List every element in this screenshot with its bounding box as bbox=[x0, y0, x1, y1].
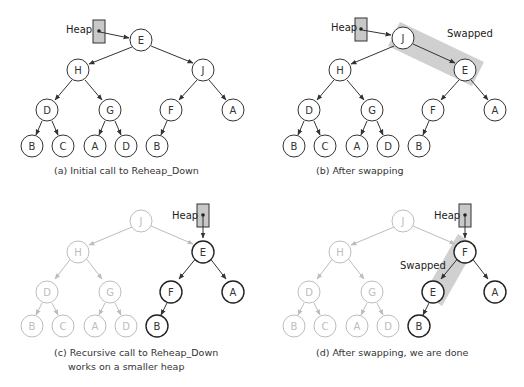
tree-node: B bbox=[21, 315, 43, 337]
svg-text:G: G bbox=[368, 287, 376, 298]
svg-text:B: B bbox=[416, 141, 423, 152]
heap-label: Heap bbox=[66, 24, 92, 35]
svg-text:D: D bbox=[384, 321, 392, 332]
svg-text:B: B bbox=[291, 141, 298, 152]
tree-node: D bbox=[298, 99, 320, 121]
tree-node: B bbox=[146, 135, 168, 157]
tree-node: A bbox=[84, 135, 106, 157]
svg-text:A: A bbox=[92, 141, 99, 152]
tree-node: D bbox=[377, 315, 399, 337]
svg-text:H: H bbox=[336, 247, 344, 258]
svg-text:F: F bbox=[168, 287, 174, 298]
tree-node: E bbox=[192, 241, 214, 263]
swapped-label: Swapped bbox=[447, 28, 493, 39]
panel-b: Swapped Heap J H E D G F A B C A D B (b)… bbox=[283, 18, 506, 176]
tree-node: C bbox=[314, 135, 336, 157]
svg-text:E: E bbox=[138, 35, 144, 46]
svg-text:F: F bbox=[430, 105, 436, 116]
svg-text:G: G bbox=[368, 105, 376, 116]
tree-node: C bbox=[314, 315, 336, 337]
svg-text:B: B bbox=[416, 321, 423, 332]
svg-text:H: H bbox=[74, 247, 82, 258]
svg-text:B: B bbox=[154, 141, 161, 152]
tree-node: H bbox=[329, 59, 351, 81]
tree-node: G bbox=[361, 99, 383, 121]
heap-label: Heap bbox=[434, 210, 460, 221]
panel-c: Heap J H E D G F A B C A D B (c) Recursi… bbox=[21, 204, 244, 372]
tree-node: D bbox=[377, 135, 399, 157]
tree-node: F bbox=[422, 99, 444, 121]
tree-node: A bbox=[84, 315, 106, 337]
svg-text:D: D bbox=[122, 321, 130, 332]
tree-node: A bbox=[484, 99, 506, 121]
panel-a: Heap E H J D G F A B C A D B (a) Initial… bbox=[21, 20, 244, 176]
panel-d: Swapped Heap J H F D G E A B C A D B (d)… bbox=[283, 204, 506, 358]
tree-node: G bbox=[99, 281, 121, 303]
tree-node: A bbox=[346, 315, 368, 337]
tree-node: G bbox=[99, 99, 121, 121]
svg-text:C: C bbox=[322, 321, 329, 332]
tree-node: J bbox=[130, 210, 152, 232]
caption-c-line2: works on a smaller heap bbox=[68, 361, 184, 372]
svg-text:A: A bbox=[354, 321, 361, 332]
reheap-down-diagram: Heap E H J D G F A B C A D B (a) Initial… bbox=[0, 0, 524, 387]
svg-text:A: A bbox=[230, 105, 237, 116]
tree-node: E bbox=[454, 59, 476, 81]
svg-text:J: J bbox=[401, 33, 405, 44]
svg-text:F: F bbox=[462, 247, 468, 258]
svg-text:H: H bbox=[74, 65, 82, 76]
tree-node: E bbox=[130, 29, 152, 51]
tree-node: C bbox=[52, 315, 74, 337]
tree-node: A bbox=[346, 135, 368, 157]
svg-text:D: D bbox=[305, 287, 313, 298]
svg-text:C: C bbox=[60, 141, 67, 152]
swapped-label: Swapped bbox=[400, 260, 446, 271]
svg-text:D: D bbox=[122, 141, 130, 152]
tree-node: A bbox=[222, 99, 244, 121]
tree-node: B bbox=[21, 135, 43, 157]
tree-node: D bbox=[36, 99, 58, 121]
tree-node: J bbox=[392, 210, 414, 232]
svg-text:A: A bbox=[354, 141, 361, 152]
tree-node: B bbox=[283, 135, 305, 157]
tree-node: D bbox=[115, 135, 137, 157]
caption-c-line1: (c) Recursive call to Reheap_Down bbox=[54, 347, 218, 358]
tree-node: J bbox=[192, 59, 214, 81]
svg-text:C: C bbox=[60, 321, 67, 332]
tree-node: D bbox=[298, 281, 320, 303]
tree-node: D bbox=[36, 281, 58, 303]
svg-text:D: D bbox=[43, 105, 51, 116]
tree-node: A bbox=[484, 281, 506, 303]
svg-text:A: A bbox=[92, 321, 99, 332]
tree-node: C bbox=[52, 135, 74, 157]
caption-a: (a) Initial call to Reheap_Down bbox=[54, 165, 199, 176]
tree-node: G bbox=[361, 281, 383, 303]
svg-text:D: D bbox=[43, 287, 51, 298]
svg-text:C: C bbox=[322, 141, 329, 152]
tree-node: H bbox=[67, 241, 89, 263]
tree-node: A bbox=[222, 281, 244, 303]
svg-text:G: G bbox=[106, 287, 114, 298]
svg-text:A: A bbox=[230, 287, 237, 298]
svg-text:F: F bbox=[168, 105, 174, 116]
svg-text:J: J bbox=[139, 216, 143, 227]
tree-node: F bbox=[454, 241, 476, 263]
tree-node: F bbox=[160, 99, 182, 121]
svg-text:J: J bbox=[201, 65, 205, 76]
tree-node: F bbox=[160, 281, 182, 303]
tree-node: D bbox=[115, 315, 137, 337]
caption-d: (d) After swapping, we are done bbox=[316, 347, 469, 358]
svg-text:B: B bbox=[29, 321, 36, 332]
svg-text:B: B bbox=[291, 321, 298, 332]
svg-text:A: A bbox=[492, 287, 499, 298]
svg-text:J: J bbox=[401, 216, 405, 227]
svg-text:E: E bbox=[200, 247, 206, 258]
tree-node: E bbox=[422, 281, 444, 303]
tree-node: B bbox=[408, 135, 430, 157]
heap-label: Heap bbox=[331, 22, 357, 33]
svg-text:A: A bbox=[492, 105, 499, 116]
svg-text:H: H bbox=[336, 65, 344, 76]
svg-text:G: G bbox=[106, 105, 114, 116]
tree-node: H bbox=[329, 241, 351, 263]
svg-text:E: E bbox=[430, 287, 436, 298]
